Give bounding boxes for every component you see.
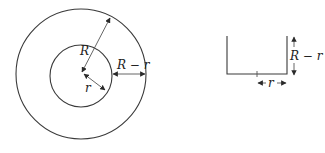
height-label: R − r <box>289 49 324 63</box>
gap-label: R − r <box>116 58 151 72</box>
width-label: r <box>268 76 275 90</box>
inner-radius-label: r <box>85 81 92 95</box>
channel-outline <box>227 36 287 74</box>
concentric-circles-figure: R r R − r <box>16 9 151 139</box>
outer-radius-label: R <box>79 44 89 58</box>
annulus-diagram: R r R − r r R − r <box>0 0 325 153</box>
channel-cross-section-figure: r R − r <box>227 36 324 90</box>
